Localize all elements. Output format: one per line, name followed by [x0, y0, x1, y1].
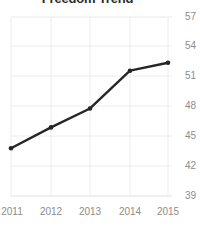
data-point-2012 [49, 125, 54, 130]
y-tick-label-51: 51 [185, 70, 196, 81]
line-chart: Freedom Trend 57 54 51 48 45 42 39 2011 … [0, 0, 200, 227]
y-tick-label-42: 42 [185, 160, 196, 171]
data-point-2013 [88, 106, 93, 111]
x-tick-label-2011: 2011 [0, 206, 24, 217]
x-tick-label-2014: 2014 [118, 206, 142, 217]
y-tick-label-39: 39 [185, 190, 196, 201]
x-tick-label-2013: 2013 [78, 206, 102, 217]
y-tick-label-57: 57 [185, 11, 196, 22]
data-point-2015 [166, 60, 171, 65]
data-point-2014 [128, 68, 133, 73]
chart-plot-area [0, 0, 200, 227]
y-tick-label-48: 48 [185, 100, 196, 111]
y-tick-label-45: 45 [185, 130, 196, 141]
x-tick-label-2015: 2015 [156, 206, 180, 217]
data-point-2011 [9, 146, 14, 151]
x-tick-label-2012: 2012 [39, 206, 63, 217]
y-tick-label-54: 54 [185, 40, 196, 51]
